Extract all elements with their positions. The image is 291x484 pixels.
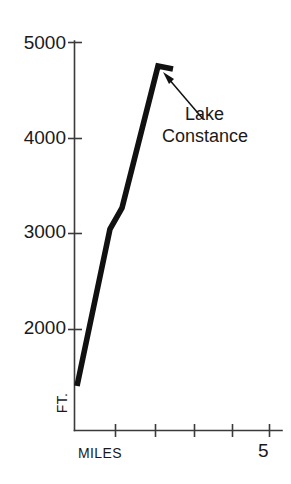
x-axis-label-5: 5 <box>258 441 269 460</box>
annotation-lake-constance: Lake Constance <box>185 104 248 148</box>
y-axis-label-5000: 5000 <box>4 33 66 52</box>
chart-plot-area <box>0 0 291 484</box>
profile-line-lake-constance <box>77 66 173 386</box>
x-axis-unit-label: MILES <box>78 446 122 460</box>
y-axis-label-4000: 4000 <box>4 128 66 147</box>
annotation-line-1: Lake <box>185 104 248 126</box>
y-axis-label-3000: 3000 <box>4 222 66 241</box>
y-axis-label-2000: 2000 <box>4 318 66 337</box>
y-axis-unit-label: FT. <box>55 386 69 420</box>
elevation-profile-chart: 5000 4000 3000 2000 FT. MILES 5 Lake Con… <box>0 0 291 484</box>
annotation-line-2: Constance <box>162 126 248 148</box>
